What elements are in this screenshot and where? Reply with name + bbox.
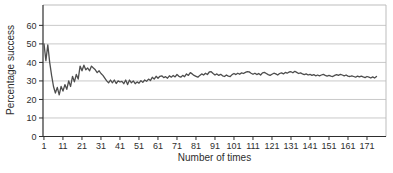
x-tick-label: 151 [321, 141, 336, 151]
x-tick-label: 1 [41, 141, 46, 151]
chart-svg: 0102030405060111213141516171819110111112… [0, 0, 393, 173]
y-tick-label: 50 [26, 39, 36, 49]
x-tick-label: 61 [153, 141, 163, 151]
x-tick-label: 11 [58, 141, 67, 151]
x-tick-label: 121 [264, 141, 279, 151]
y-tick-label: 20 [26, 95, 36, 105]
y-tick-label: 60 [26, 21, 36, 31]
x-tick-label: 41 [115, 141, 125, 151]
y-tick-label: 0 [31, 132, 36, 142]
x-tick-label: 81 [191, 141, 201, 151]
x-tick-label: 171 [359, 141, 374, 151]
x-tick-label: 31 [96, 141, 106, 151]
x-tick-label: 131 [283, 141, 298, 151]
x-tick-label: 111 [246, 141, 260, 151]
y-tick-label: 10 [26, 113, 36, 123]
x-tick-label: 51 [134, 141, 144, 151]
x-tick-label: 71 [172, 141, 182, 151]
x-tick-label: 91 [210, 141, 220, 151]
x-tick-label: 101 [226, 141, 241, 151]
y-tick-label: 40 [26, 58, 36, 68]
y-tick-label: 30 [26, 76, 36, 86]
x-tick-label: 141 [302, 141, 317, 151]
y-axis-label: Percentage success [5, 25, 16, 115]
x-tick-label: 21 [77, 141, 87, 151]
series-line [44, 44, 377, 95]
x-tick-label: 161 [340, 141, 355, 151]
x-axis-label: Number of times [43, 152, 386, 163]
success-rate-line-chart: Percentage success 010203040506011121314… [0, 0, 393, 173]
